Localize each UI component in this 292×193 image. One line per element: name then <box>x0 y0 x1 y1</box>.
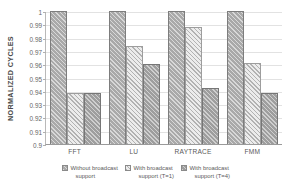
x-axis-category-label-lu: LU <box>104 148 163 160</box>
x-axis-category-labels: FFTLURAYTRACEFMM <box>45 148 282 160</box>
bar-group <box>223 12 282 144</box>
bar <box>50 11 67 144</box>
legend-label-line2: support (T=4) <box>189 172 230 180</box>
legend-swatch-icon <box>181 165 187 171</box>
bar-group <box>46 12 105 144</box>
legend-label: With broadcastsupport (T=4) <box>189 164 230 180</box>
plot-area: 0.90.910.920.930.940.950.960.970.980.991 <box>45 12 282 145</box>
bar <box>168 11 185 144</box>
x-axis-category-label-fmm: FMM <box>223 148 282 160</box>
y-axis-tick-label: 0.94 <box>30 88 42 95</box>
y-axis-tick-label: 0.92 <box>30 115 42 122</box>
bar <box>202 88 219 144</box>
bar <box>244 63 261 144</box>
legend-item[interactable]: With broadcastsupport (T=1) <box>125 164 174 180</box>
bar <box>143 64 160 144</box>
bar-chart: NORMALIZED CYCLES 0.90.910.920.930.940.9… <box>0 0 292 193</box>
y-axis-title: NORMALIZED CYCLES <box>2 18 18 138</box>
legend-swatch-icon <box>125 165 131 171</box>
bar <box>261 93 278 144</box>
y-axis-tick-label: 0.9 <box>33 142 42 149</box>
legend-swatch-icon <box>62 165 68 171</box>
y-axis-tick-label: 1 <box>38 9 42 16</box>
x-axis-category-label-raytrace: RAYTRACE <box>164 148 223 160</box>
y-axis-tick-label: 0.93 <box>30 102 42 109</box>
x-axis-category-label-fft: FFT <box>45 148 104 160</box>
bar-group <box>164 12 223 144</box>
bar <box>67 93 84 144</box>
legend-label-line2: support (T=1) <box>133 172 174 180</box>
bar <box>84 93 101 144</box>
bar <box>109 11 126 144</box>
y-axis-title-label: NORMALIZED CYCLES <box>6 35 15 120</box>
legend-label: Without broadcastsupport <box>70 164 117 180</box>
legend-label-line2: support <box>70 172 117 180</box>
bar <box>126 46 143 144</box>
y-axis-tick-label: 0.96 <box>30 62 42 69</box>
y-axis-tick-label: 0.99 <box>30 22 42 29</box>
legend-label: With broadcastsupport (T=1) <box>133 164 174 180</box>
y-axis-tick-label: 0.97 <box>30 48 42 55</box>
bar-groups <box>46 12 282 144</box>
legend-item[interactable]: Without broadcastsupport <box>62 164 118 180</box>
legend-item[interactable]: With broadcastsupport (T=4) <box>181 164 230 180</box>
y-axis-tick-label: 0.98 <box>30 35 42 42</box>
bar-group <box>105 12 164 144</box>
y-axis-tick-mark <box>43 145 46 146</box>
y-axis-tick-label: 0.95 <box>30 75 42 82</box>
chart-legend: Without broadcastsupportWith broadcastsu… <box>30 164 262 180</box>
y-axis-tick-label: 0.91 <box>30 128 42 135</box>
bar <box>185 27 202 144</box>
bar <box>227 11 244 144</box>
